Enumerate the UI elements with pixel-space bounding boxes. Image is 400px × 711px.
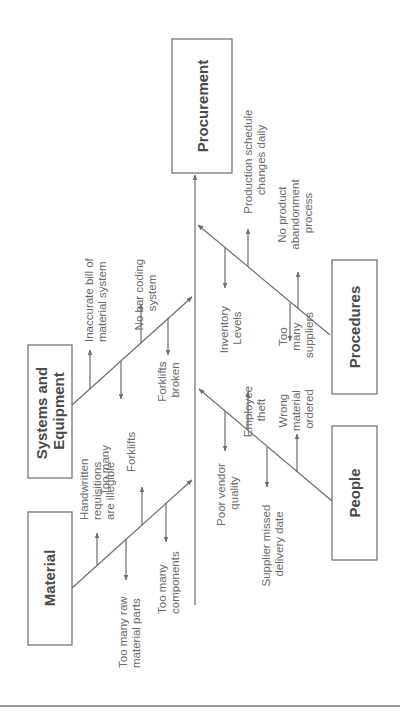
cause-text: Employee theft: [242, 383, 267, 437]
cause-text: Too many suppliers: [277, 312, 315, 358]
fishbone-diagram: Procurement Material Handwritten requisi…: [0, 0, 400, 711]
cause-text: Wrong material ordered: [277, 387, 315, 431]
cause-text: Too many raw material parts: [117, 593, 142, 668]
cause-text: Forklifts: [125, 432, 137, 473]
cause-text: Forklifts broken: [156, 358, 181, 401]
category-label-people: People: [346, 468, 363, 517]
cause-text: Too many: [99, 445, 111, 495]
cause-text: Production schedule changes daily: [242, 106, 267, 213]
cause-text: Poor vendor quality: [215, 460, 240, 526]
cause-text: Supplier missed delivery date: [260, 501, 285, 586]
cause-text: Inaccurate bill of material system: [83, 255, 108, 342]
cause-text: No bar coding system: [133, 256, 158, 331]
category-people: People Poor vendor quality Employee thef…: [199, 383, 377, 587]
category-systems-and-equipment: Systems and Equipment Inaccurate bill of…: [28, 255, 192, 478]
category-label-material: Material: [41, 550, 58, 607]
effect-box-procurement: Procurement: [172, 39, 232, 173]
cause-text: No product abandonment process: [276, 176, 314, 250]
cause-text: Inventory Levels: [218, 303, 243, 354]
effect-label: Procurement: [194, 60, 211, 153]
category-label-systems: Systems and Equipment: [33, 363, 67, 460]
cause-text: Too many components: [156, 551, 181, 614]
category-label-procedures: Procedures: [346, 286, 363, 369]
